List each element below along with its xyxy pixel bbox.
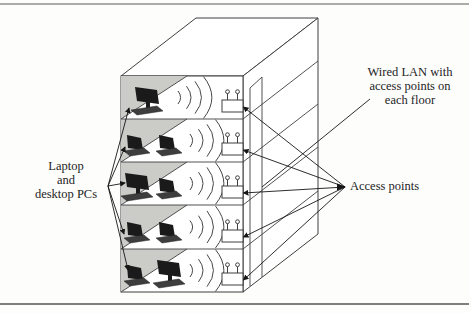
devices-label-line2: and	[16, 174, 116, 188]
devices-label-line1: Laptop	[16, 160, 116, 174]
access-point-box	[222, 230, 243, 242]
devices-label-line3: desktop PCs	[16, 188, 116, 202]
antenna-tip	[236, 90, 240, 94]
antenna-tip	[236, 263, 240, 267]
access-points-label: Access points	[350, 180, 419, 194]
antenna-tip	[236, 176, 240, 180]
antenna-tip	[226, 220, 230, 224]
devices-label: Laptop and desktop PCs	[16, 160, 116, 201]
wired-lan-label-line1: Wired LAN with	[352, 66, 468, 80]
access-point-box	[222, 186, 243, 198]
antenna-tip	[226, 176, 230, 180]
antenna-tip	[226, 263, 230, 267]
antenna-tip	[236, 220, 240, 224]
antenna-tip	[236, 133, 240, 137]
access-point-box	[222, 143, 243, 155]
wired-lan-label-line3: each floor	[352, 94, 468, 108]
wired-lan-label: Wired LAN with access points on each flo…	[352, 66, 468, 107]
wired-lan-label-line2: access points on	[352, 80, 468, 94]
access-point-box	[222, 100, 243, 112]
antenna-tip	[226, 133, 230, 137]
access-points-label-text: Access points	[350, 179, 419, 193]
figure-canvas: Laptop and desktop PCs Wired LAN with ac…	[0, 0, 469, 313]
antenna-tip	[226, 90, 230, 94]
access-point-box	[222, 273, 243, 285]
wireless-lan-diagram	[0, 0, 469, 313]
